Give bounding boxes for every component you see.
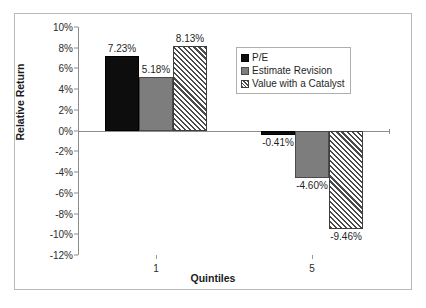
y-axis-tick <box>74 89 78 90</box>
bar-value-label: 5.18% <box>141 64 171 75</box>
relative-return-bar-chart: Relative Return Quintiles 10%8%6%4%2%0%-… <box>0 0 426 308</box>
bar-2-cat-5 <box>295 131 329 179</box>
x-axis-tick <box>312 255 313 259</box>
legend-label-pe: P/E <box>252 52 268 63</box>
bar-value-label: -4.60% <box>295 180 329 191</box>
legend-item-estimate-revision: Estimate Revision <box>241 64 345 77</box>
y-axis-tick <box>74 255 78 256</box>
bar-3-cat-1 <box>173 46 207 130</box>
y-axis-tick <box>74 109 78 110</box>
y-axis-tick-label: 4% <box>59 84 73 95</box>
bar-value-label: -9.46% <box>329 231 363 242</box>
x-axis-category-label: 5 <box>309 263 315 274</box>
bar-3-cat-5 <box>329 131 363 229</box>
bar-value-label: -0.41% <box>261 137 295 148</box>
y-axis-tick-label: 0% <box>59 125 73 136</box>
y-axis-tick <box>74 213 78 214</box>
x-axis-category-label: 1 <box>153 263 159 274</box>
y-axis-tick-label: -6% <box>55 187 73 198</box>
legend-label-value-with-a-catalyst: Value with a Catalyst <box>252 78 345 89</box>
legend-item-pe: P/E <box>241 51 345 64</box>
y-axis-tick <box>74 151 78 152</box>
y-axis-tick <box>74 234 78 235</box>
y-axis-tick-label: 10% <box>53 22 73 33</box>
bar-value-label: 8.13% <box>175 33 205 44</box>
y-axis-tick <box>74 172 78 173</box>
legend-swatch-icon-value-with-a-catalyst <box>241 80 249 88</box>
y-axis-tick <box>74 27 78 28</box>
x-axis-title: Quintiles <box>0 272 426 284</box>
bar-1-cat-5 <box>261 131 295 135</box>
bar-value-label: 7.23% <box>107 43 137 54</box>
y-axis-tick-label: -8% <box>55 208 73 219</box>
y-axis-line <box>78 27 79 255</box>
chart-legend: P/E Estimate Revision Value with a Catal… <box>236 47 351 94</box>
y-axis-title: Relative Return <box>14 54 26 150</box>
y-axis-tick-label: 2% <box>59 104 73 115</box>
y-axis-tick-label: -10% <box>50 229 73 240</box>
x-axis-tick <box>156 255 157 259</box>
legend-label-estimate-revision: Estimate Revision <box>252 65 332 76</box>
y-axis-tick <box>74 192 78 193</box>
legend-item-value-with-a-catalyst: Value with a Catalyst <box>241 77 345 90</box>
bar-1-cat-1 <box>105 56 139 131</box>
legend-swatch-icon-estimate-revision <box>241 67 249 75</box>
y-axis-tick <box>74 68 78 69</box>
y-axis-tick-label: 8% <box>59 42 73 53</box>
legend-swatch-icon-pe <box>241 54 249 62</box>
y-axis-tick-label: -2% <box>55 146 73 157</box>
y-axis-tick-label: -12% <box>50 250 73 261</box>
bar-2-cat-1 <box>139 77 173 131</box>
zero-baseline-end-tick <box>389 129 390 134</box>
y-axis-tick-label: -4% <box>55 167 73 178</box>
y-axis-tick <box>74 47 78 48</box>
y-axis-tick-label: 6% <box>59 63 73 74</box>
